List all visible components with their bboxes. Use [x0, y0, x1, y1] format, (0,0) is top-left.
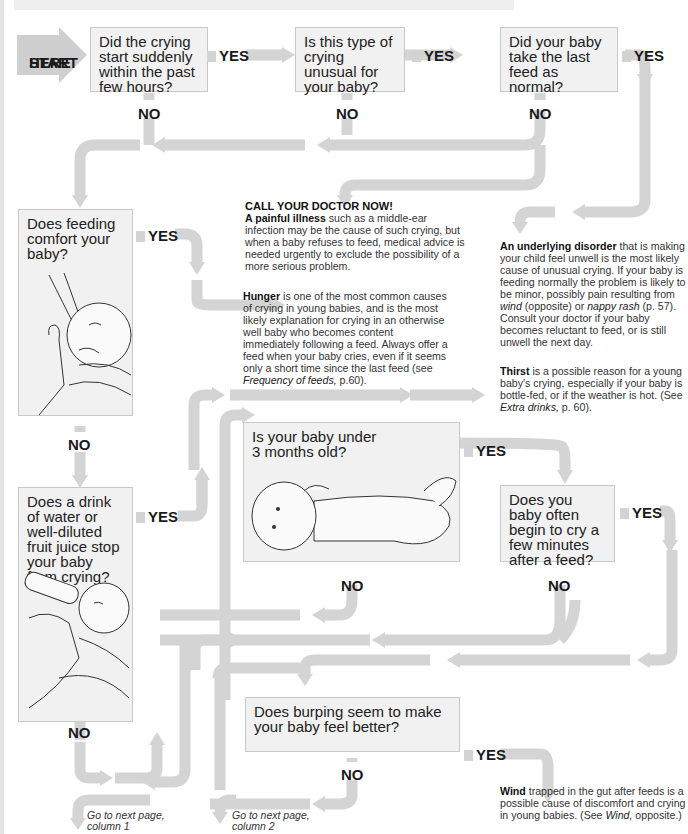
baby-bottle-feeding-illustration [19, 568, 132, 718]
question-feeding-comfort: Does feeding comfort your baby? [18, 209, 133, 416]
q2-no-label: NO [336, 106, 359, 121]
baby-breastfeeding-illustration [19, 265, 132, 415]
goto-next-page-column-2[interactable]: Go to next page, column 2 [232, 810, 310, 832]
baby-lying-illustration [244, 461, 459, 561]
q1-no-label: NO [138, 106, 161, 121]
q6-no-label: NO [341, 578, 364, 593]
q5-no-label: NO [68, 725, 91, 740]
q7-yes-label: YES [620, 505, 662, 520]
q6-text-line2: 3 months old? [252, 444, 451, 459]
question-drink-water: Does a drink of water or well-diluted fr… [18, 487, 133, 722]
start-here-marker: STARTHERE [17, 27, 87, 83]
q4-text: Does feeding comfort your baby? [27, 216, 122, 261]
q5-yes-label: YES [136, 509, 178, 524]
question-burping: Does burping seem to make your baby feel… [245, 697, 460, 752]
question-under-3-months: Is your baby under 3 months old? [243, 422, 460, 562]
q4-yes-label: YES [136, 228, 178, 243]
q7-no-label: NO [548, 578, 571, 593]
q6-text-line1: Is your baby under [252, 429, 451, 444]
q3-yes-label: YES [622, 48, 664, 63]
question-unusual-crying: Is this type of crying unusual for your … [295, 27, 405, 92]
q8-no-label: NO [341, 767, 364, 782]
q3-no-label: NO [529, 106, 552, 121]
note-call-doctor: CALL YOUR DOCTOR NOW! A painful illness … [245, 200, 465, 272]
q8-yes-label: YES [464, 747, 506, 762]
question-sudden-crying: Did the crying start suddenly within the… [90, 27, 208, 92]
note-hunger: Hunger is one of the most common causes … [243, 290, 448, 386]
note-wind: Wind trapped in the gut after feeds is a… [500, 785, 688, 821]
question-last-feed: Did your baby take the last feed as norm… [500, 27, 618, 92]
call-doctor-heading: CALL YOUR DOCTOR NOW! [245, 200, 465, 212]
goto-next-page-column-1[interactable]: Go to next page, column 1 [87, 810, 165, 832]
q4-no-label: NO [68, 437, 91, 452]
note-thirst: Thirst is a possible reason for a young … [500, 365, 688, 413]
question-cry-after-feed: Does you baby often begin to cry a few m… [500, 485, 615, 562]
note-underlying-disorder: An underlying disorder that is making yo… [500, 240, 688, 348]
q6-yes-label: YES [464, 443, 506, 458]
q1-yes-label: YES [207, 48, 249, 63]
q2-yes-label: YES [412, 48, 454, 63]
